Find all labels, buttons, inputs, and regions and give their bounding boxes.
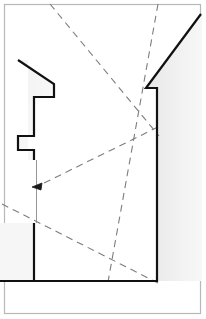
pier-shading [0,223,34,280]
figure-container: Architectural section line drawing with … [0,0,206,319]
line-drawing-canvas [0,0,206,319]
